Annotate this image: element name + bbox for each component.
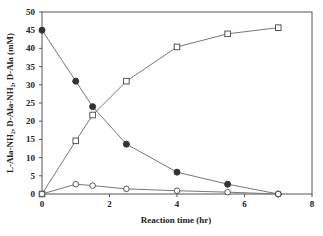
data-point-open-circle (174, 188, 180, 194)
data-point-filled-circle (123, 141, 129, 147)
series-line (42, 30, 278, 194)
x-tick-label: 6 (242, 199, 247, 209)
y-tick-label: 10 (26, 153, 36, 163)
x-tick-label: 2 (107, 199, 112, 209)
y-tick-label: 40 (26, 43, 36, 53)
data-point-filled-circle (39, 27, 45, 33)
x-tick-label: 8 (310, 199, 315, 209)
data-point-open-circle (225, 189, 231, 195)
y-tick-label: 30 (26, 80, 36, 90)
data-point-open-circle (73, 181, 79, 187)
data-point-open-square (225, 31, 231, 37)
y-tick-label: 45 (26, 25, 36, 35)
y-tick-label: 20 (26, 116, 36, 126)
data-point-open-square (275, 25, 281, 31)
y-tick-label: 5 (31, 171, 36, 181)
data-point-open-circle (124, 186, 130, 192)
data-point-open-circle (90, 183, 96, 189)
data-point-filled-circle (90, 104, 96, 110)
data-point-open-square (73, 138, 79, 144)
data-point-open-square (124, 78, 130, 84)
x-tick-label: 4 (175, 199, 180, 209)
line-chart: 0510152025303540455002468 Reaction time … (0, 0, 323, 236)
x-axis-label: Reaction time (hr) (141, 215, 211, 225)
plot-area: 0510152025303540455002468 (26, 7, 315, 209)
data-point-open-circle (275, 191, 281, 197)
y-tick-label: 25 (26, 98, 36, 108)
y-tick-label: 50 (26, 7, 36, 17)
data-point-filled-circle (73, 78, 79, 84)
data-point-open-circle (39, 191, 45, 197)
data-point-filled-circle (174, 169, 180, 175)
data-point-open-square (174, 44, 180, 50)
y-tick-label: 15 (26, 134, 36, 144)
series-line (42, 28, 278, 194)
plot-frame (42, 12, 312, 194)
y-axis-label: L-Ala-NH₂, D-Ala-NH₂, D-Ala (mM) (5, 33, 15, 173)
data-point-open-square (90, 112, 96, 118)
data-point-filled-circle (225, 181, 231, 187)
x-tick-label: 0 (40, 199, 45, 209)
y-tick-label: 35 (26, 62, 36, 72)
y-tick-label: 0 (31, 189, 36, 199)
